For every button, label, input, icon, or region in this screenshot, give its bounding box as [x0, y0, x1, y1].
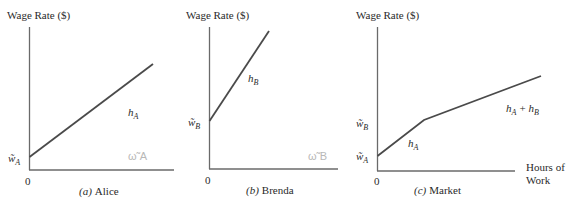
y-axis-label: Wage Rate ($)	[356, 9, 420, 22]
handwritten-annotation: ω̃ A	[128, 150, 148, 162]
segment-h-a-label: hA	[408, 137, 419, 152]
labor-supply-figure: Wage Rate ($) w̃A hA ω̃ A 0 (a)Alice Wag…	[0, 0, 570, 203]
supply-curve-h-b	[210, 31, 270, 121]
supply-curve-h-a	[30, 64, 154, 157]
y-axis-label: Wage Rate ($)	[7, 9, 71, 22]
panel-brenda: Wage Rate ($) w̃B hB ω̃ B 0 (b)Brenda	[186, 9, 338, 197]
intercept-b-label: w̃B	[356, 117, 368, 132]
origin-label: 0	[25, 175, 31, 187]
intercept-label: w̃A	[8, 152, 20, 167]
panel-caption: (c)Market	[414, 184, 461, 197]
panel-caption: (b)Brenda	[246, 184, 294, 197]
panel-caption: (a)Alice	[79, 185, 119, 198]
origin-label: 0	[374, 175, 380, 187]
panel-alice: Wage Rate ($) w̃A hA ω̃ A 0 (a)Alice	[7, 9, 174, 198]
segment-h-a-plus-h-b-label: hA+hB	[506, 102, 539, 117]
curve-label: hA	[128, 106, 139, 121]
curve-label: hB	[248, 72, 259, 87]
x-axis-label-line1: Hours of	[526, 161, 565, 173]
x-axis-label-line2: Work	[526, 174, 551, 186]
market-supply-curve	[378, 76, 542, 156]
panel-market: Wage Rate ($) w̃B w̃A hA hA+hB Hours of …	[356, 9, 565, 197]
handwritten-annotation: ω̃ B	[308, 150, 327, 162]
intercept-a-label: w̃A	[356, 150, 368, 165]
origin-label: 0	[205, 174, 211, 186]
intercept-label: w̃B	[188, 116, 200, 131]
y-axis-label: Wage Rate ($)	[186, 9, 250, 22]
